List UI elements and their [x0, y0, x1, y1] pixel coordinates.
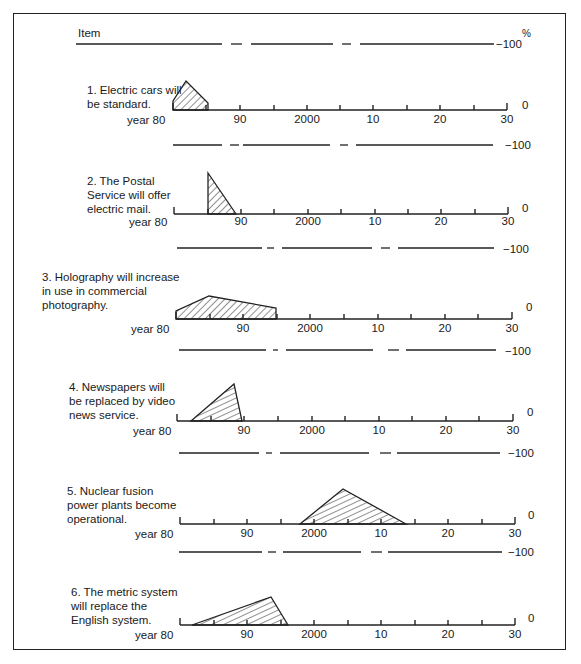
forecast-shape-6 — [192, 597, 288, 625]
year-label-2: year 80 — [129, 215, 167, 229]
tick-30: 30 — [509, 527, 522, 540]
ref-label-2: −100 — [505, 138, 531, 152]
tick-2000: 2000 — [294, 113, 320, 126]
zero-label-3: 0 — [526, 300, 532, 314]
ref-label-5: −100 — [508, 446, 534, 460]
tick-2000: 2000 — [297, 322, 323, 335]
zero-label-4: 0 — [527, 405, 533, 419]
ref-label-4: −100 — [505, 344, 531, 358]
forecast-shape-1 — [173, 81, 208, 110]
tick-90: 90 — [238, 424, 251, 437]
forecast-shape-3 — [176, 296, 276, 319]
tick-30: 30 — [501, 113, 514, 126]
axes — [173, 103, 515, 625]
ref-label-top: −100 — [496, 37, 522, 51]
tick-90: 90 — [234, 113, 247, 126]
year-label-4: year 80 — [133, 424, 171, 438]
forecast-shape-5 — [300, 489, 406, 524]
year-label-5: year 80 — [135, 527, 173, 541]
year-label-6: year 80 — [135, 628, 173, 642]
year-label-3: year 80 — [131, 322, 169, 336]
tick-2000: 2000 — [299, 424, 325, 437]
tick-10: 10 — [369, 215, 382, 228]
tick-10: 10 — [367, 113, 380, 126]
zero-label-5: 0 — [528, 508, 534, 522]
tick-90: 90 — [241, 628, 254, 641]
tick-10: 10 — [372, 322, 385, 335]
zero-label-1: 0 — [522, 98, 528, 112]
tick-30: 30 — [509, 628, 522, 641]
year-label-1: year 80 — [127, 113, 165, 127]
tick-90: 90 — [237, 322, 250, 335]
tick-2000: 2000 — [295, 215, 321, 228]
tick-10: 10 — [375, 628, 388, 641]
tick-90: 90 — [235, 215, 248, 228]
tick-30: 30 — [506, 322, 519, 335]
tick-30: 30 — [507, 424, 520, 437]
tick-20: 20 — [440, 424, 453, 437]
tick-20: 20 — [442, 628, 455, 641]
ref-label-3: −100 — [503, 242, 529, 256]
ref-label-6: −100 — [508, 545, 534, 559]
forecast-shape-4 — [191, 384, 242, 421]
tick-2000: 2000 — [301, 527, 327, 540]
tick-20: 20 — [435, 215, 448, 228]
tick-20: 20 — [434, 113, 447, 126]
tick-90: 90 — [241, 527, 254, 540]
zero-label-2: 0 — [522, 201, 528, 215]
tick-10: 10 — [373, 424, 386, 437]
tick-20: 20 — [439, 322, 452, 335]
tick-30: 30 — [502, 215, 515, 228]
chart-graphics — [0, 0, 581, 664]
tick-10: 10 — [375, 527, 388, 540]
tick-20: 20 — [442, 527, 455, 540]
forecast-shape-2 — [208, 173, 236, 214]
zero-label-6: 0 — [528, 611, 534, 625]
tick-2000: 2000 — [301, 628, 327, 641]
